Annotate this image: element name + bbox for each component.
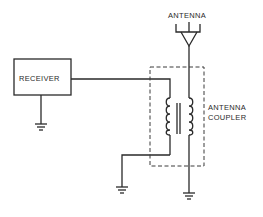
ground-icon [35, 124, 47, 130]
coupler-label-line1: ANTENNA [208, 103, 246, 112]
primary-ground-wire [122, 155, 170, 187]
secondary-coil-icon [189, 98, 193, 135]
antenna-icon [176, 22, 200, 46]
coupler-label-line2: COUPLER [208, 113, 247, 122]
ground-icon [116, 187, 128, 193]
receiver-label: RECEIVER [19, 74, 60, 83]
circuit-diagram: ANTENNA RECEIVER ANTENNA COUP [0, 0, 263, 217]
antenna-label: ANTENNA [168, 11, 206, 20]
ground-icon [183, 193, 195, 199]
primary-coil-icon [166, 98, 170, 135]
receiver-to-primary-wire [71, 79, 170, 98]
